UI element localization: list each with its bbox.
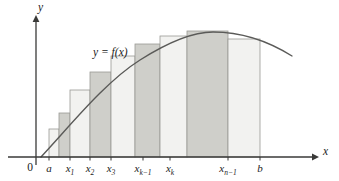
y-axis-arrowhead [33,15,40,22]
riemann-rectangle [160,36,187,157]
riemann-rectangle [70,90,90,157]
tick-label-x2: x2 [86,163,95,174]
riemann-rectangle [111,56,135,157]
curve-function-label: y = f(x) [93,47,128,59]
tick-label-x1: x1 [66,163,75,174]
riemann-rectangle [228,39,260,157]
riemann-sum-figure: y = f(x) 0 y x ax1x2x3xk−1xkxn−1b [0,0,339,181]
tick-label-x3: x3 [107,163,116,174]
tick-label-xk: xk [166,163,174,174]
tick-label-xk-1: xk−1 [134,163,151,174]
riemann-rectangle [187,31,228,157]
x-axis-arrowhead [312,154,319,161]
rectangles-group [49,31,260,157]
x-axis-label: x [323,146,328,158]
tick-label-a: a [46,163,52,174]
figure-canvas [0,0,339,181]
tick-label-xn-1: xn−1 [219,163,236,174]
y-axis-label: y [38,2,43,14]
tick-label-b: b [257,163,263,174]
origin-label: 0 [27,162,33,174]
